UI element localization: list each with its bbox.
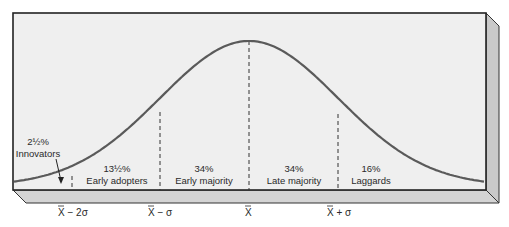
tick-mean: X [245,206,252,218]
laggards-percent: 16% [361,163,381,174]
svg-text:X + σ: X + σ [327,207,352,218]
normal-distribution-chart: 2½% Innovators 13½% Early adopters 34% E… [0,0,509,227]
box-side-face [486,13,499,203]
early-adopters-percent: 13½% [104,163,131,174]
laggards-label: Laggards [351,175,391,186]
tick-minus-2-sigma: X − 2σ [58,206,89,218]
innovators-label: Innovators [16,148,61,159]
innovators-percent: 2½% [27,136,49,147]
early-majority-percent: 34% [194,163,214,174]
early-adopters-label: Early adopters [86,175,148,186]
early-majority-label: Early majority [175,175,233,186]
tick-minus-1-sigma: X − σ [148,206,173,218]
svg-text:X: X [245,207,252,218]
tick-plus-1-sigma: X + σ [327,206,352,218]
late-majority-label: Late majority [267,175,322,186]
svg-text:X − σ: X − σ [148,207,173,218]
box-bottom-face [13,190,499,203]
svg-text:X − 2σ: X − 2σ [58,207,89,218]
late-majority-percent: 34% [284,163,304,174]
